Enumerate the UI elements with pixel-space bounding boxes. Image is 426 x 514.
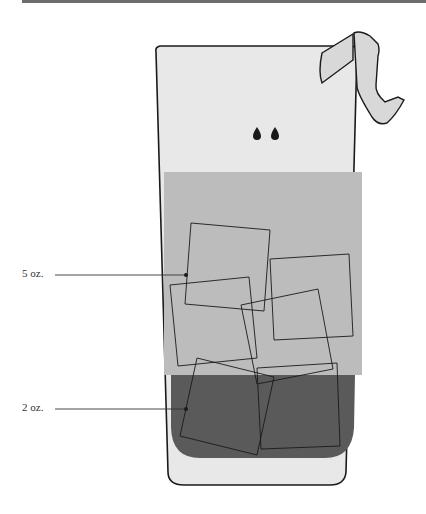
- label-2oz: 2 oz.: [22, 401, 43, 413]
- cocktail-diagram: [0, 0, 426, 514]
- label-5oz: 5 oz.: [22, 267, 43, 279]
- bottom-liquid-layer: [171, 375, 355, 458]
- top-liquid-layer: [164, 172, 362, 375]
